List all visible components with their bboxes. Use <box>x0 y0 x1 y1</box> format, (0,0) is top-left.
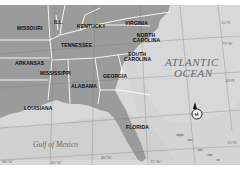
state-label-alabama: ALABAMA <box>71 84 97 89</box>
coord-lon-75b: 75°W <box>150 159 161 164</box>
state-label-kentucky: KENTUCKY <box>77 24 106 29</box>
coord-lat-25: 25°N <box>227 140 237 145</box>
state-label-south-carolina: SOUTH CAROLINA <box>124 52 150 62</box>
gulf-of-mexico-label: Gulf of Mexico <box>33 140 78 149</box>
coord-lat-35: 35°N <box>221 20 231 25</box>
state-label-virginia: VIRGINIA <box>125 21 148 26</box>
map: MISSOURI ILL. KENTUCKY VIRGINIA NORTH CA… <box>0 0 245 177</box>
state-label-louisiana: LOUISIANA <box>24 106 52 111</box>
state-label-florida: FLORIDA <box>126 125 149 130</box>
state-label-tennessee: TENNESSEE <box>61 43 92 48</box>
coord-lat-30: 30°N <box>225 78 235 83</box>
coord-lon-90: 90°W <box>2 159 13 164</box>
state-label-arkansas: ARKANSAS <box>15 61 44 66</box>
state-label-missouri: MISSOURI <box>17 26 43 31</box>
coord-lon-80: 80°W <box>101 155 112 160</box>
state-label-north-carolina: NORTH CAROLINA <box>133 33 159 43</box>
state-label-mississippi: MISSISSIPPI <box>40 71 71 76</box>
state-label-illinois: ILL. <box>54 20 63 25</box>
atlantic-ocean-label-line2: OCEAN <box>174 67 213 79</box>
coord-lon-85: 85°W <box>51 160 62 165</box>
coord-lon-75: 75°W <box>222 41 233 46</box>
state-label-georgia: GEORGIA <box>103 74 127 79</box>
